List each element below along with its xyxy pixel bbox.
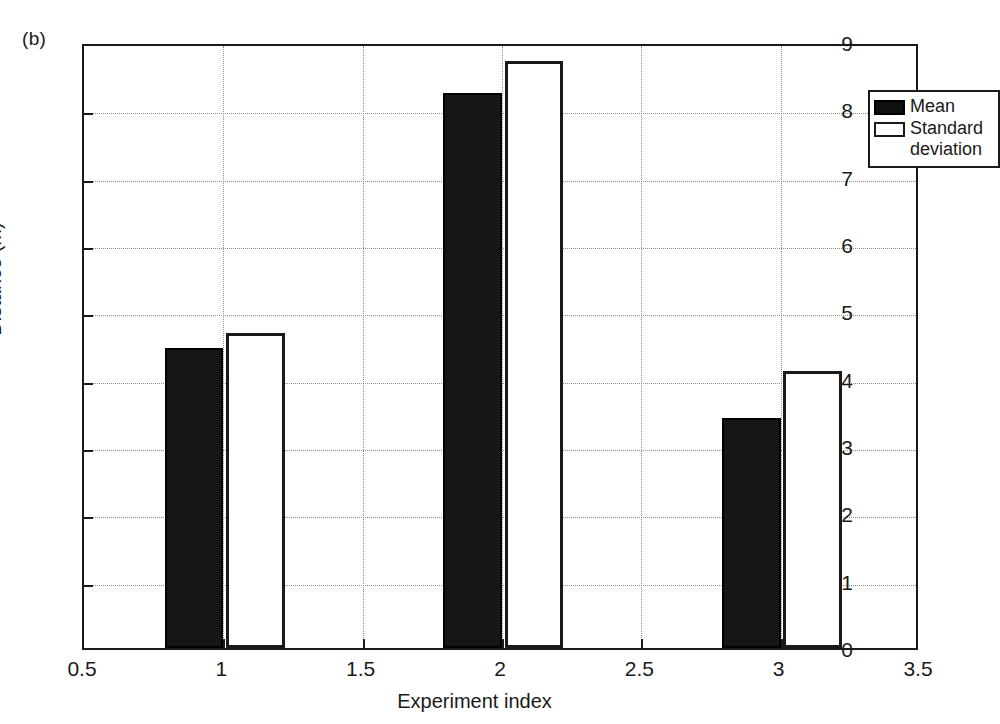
x-axis-tick-label: 2 (455, 658, 545, 679)
bar-mean-exp-2 (443, 93, 502, 649)
y-axis-tick (84, 383, 93, 385)
x-axis-title: Experiment index (0, 690, 949, 712)
gridline-vertical (502, 46, 503, 648)
plot-frame: Mean Standard deviation (82, 44, 918, 650)
y-axis-tick-label: 1 (793, 572, 853, 593)
y-axis-tick-label: 3 (793, 437, 853, 458)
y-axis-tick (84, 585, 93, 587)
x-axis-tick (223, 639, 225, 648)
y-axis-title: Distance (m) (0, 79, 5, 479)
x-axis-tick (781, 639, 783, 648)
legend-label-standard-deviation: Standard deviation (910, 118, 983, 160)
bar-mean-exp-3 (722, 418, 781, 648)
x-axis-tick-label: 1 (176, 658, 266, 679)
y-axis-tick (84, 517, 93, 519)
x-axis-tick-label: 1.5 (316, 658, 406, 679)
y-axis-tick-label: 4 (793, 370, 853, 391)
y-axis-tick-label: 7 (793, 168, 853, 189)
gridline-vertical (363, 46, 364, 648)
x-axis-tick-label: 2.5 (594, 658, 684, 679)
legend-label-mean: Mean (910, 96, 955, 117)
y-axis-tick-label: 0 (793, 639, 853, 660)
y-axis-tick (84, 181, 93, 183)
gridline-vertical (641, 46, 642, 648)
x-axis-tick (502, 639, 504, 648)
chart-legend: Mean Standard deviation (868, 90, 1000, 168)
y-axis-tick (84, 248, 93, 250)
legend-item-standard-deviation: Standard deviation (874, 118, 993, 160)
gridline-vertical (223, 46, 224, 648)
y-axis-tick-label: 8 (793, 100, 853, 121)
panel-label: (b) (22, 28, 46, 50)
bar-standard-deviation-exp-1 (226, 333, 285, 648)
y-axis-tick (84, 113, 93, 115)
x-axis-tick-label: 3.5 (873, 658, 963, 679)
x-axis-tick (641, 639, 643, 648)
y-axis-tick-label: 9 (793, 33, 853, 54)
bar-standard-deviation-exp-2 (505, 61, 564, 648)
gridline-vertical (781, 46, 782, 648)
x-axis-tick (363, 639, 365, 648)
bar-mean-exp-1 (165, 348, 224, 648)
y-axis-tick-label: 6 (793, 235, 853, 256)
legend-swatch-mean-icon (874, 100, 905, 115)
y-axis-tick (84, 450, 93, 452)
plot-area (84, 46, 916, 648)
y-axis-tick-label: 5 (793, 302, 853, 323)
y-axis-tick-label: 2 (793, 504, 853, 525)
x-axis-tick-label: 0.5 (37, 658, 127, 679)
x-axis-tick-label: 3 (734, 658, 824, 679)
legend-swatch-standard-deviation-icon (874, 122, 905, 137)
y-axis-tick (84, 315, 93, 317)
legend-item-mean: Mean (874, 96, 993, 117)
